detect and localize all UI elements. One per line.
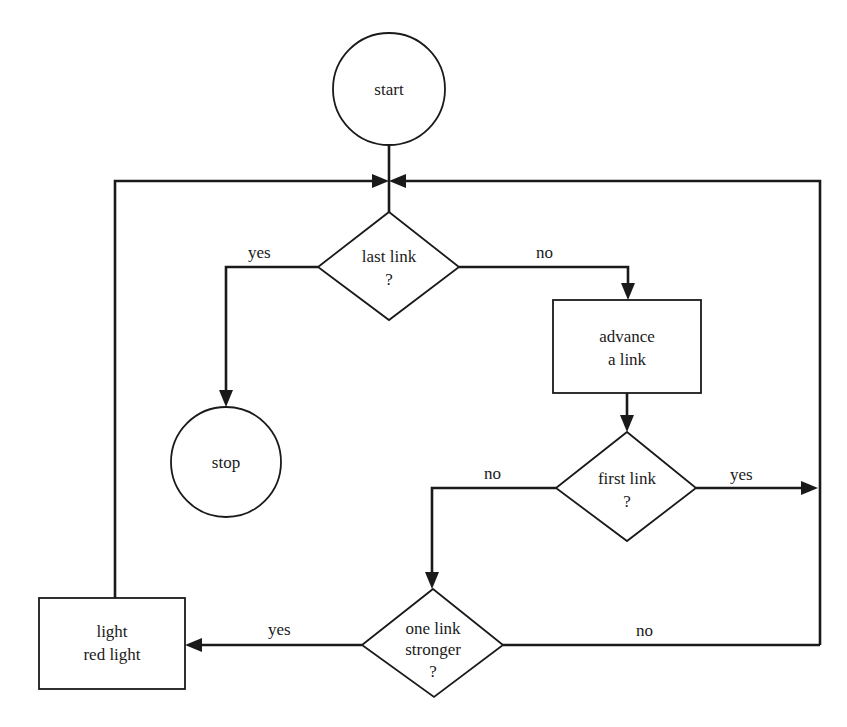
last-link-no-edge: no: [459, 243, 635, 300]
first-link-question: ?: [623, 492, 631, 511]
last-link-question: ?: [385, 270, 393, 289]
stronger-label-line2: stronger: [405, 640, 461, 659]
red-light-label-line1: light: [96, 622, 127, 641]
first-link-label: first link: [598, 469, 657, 488]
stronger-no-edge: no: [503, 621, 820, 645]
stronger-label-line1: one link: [405, 619, 461, 638]
stronger-yes-edge: yes: [185, 620, 362, 652]
stronger-decision: one link stronger ?: [362, 589, 503, 697]
right-loop-edge: [389, 174, 820, 645]
last-link-label: last link: [362, 247, 417, 266]
last-link-decision: last link ?: [318, 212, 459, 320]
first-link-yes-edge: yes: [696, 465, 818, 495]
flowchart-canvas: start last link ? yes stop no advance a: [0, 0, 847, 727]
stronger-no-label: no: [636, 621, 653, 640]
advance-label-line1: advance: [599, 327, 655, 346]
advance-label-line2: a link: [608, 350, 647, 369]
last-link-yes-label: yes: [248, 243, 271, 262]
first-link-no-edge: no: [425, 464, 556, 589]
start-label: start: [374, 80, 404, 99]
red-light-process: light red light: [39, 598, 185, 689]
first-link-no-label: no: [484, 464, 501, 483]
advance-to-first-link-edge: [620, 393, 634, 432]
stop-node: stop: [171, 407, 281, 517]
stop-label: stop: [212, 453, 240, 472]
stronger-question: ?: [429, 662, 437, 681]
first-link-decision: first link ?: [556, 432, 696, 541]
advance-link-process: advance a link: [553, 300, 701, 393]
start-node: start: [333, 33, 445, 145]
red-light-loop-edge: [115, 174, 389, 598]
red-light-label-line2: red light: [83, 645, 140, 664]
first-link-yes-label: yes: [730, 465, 753, 484]
last-link-no-label: no: [536, 243, 553, 262]
last-link-yes-edge: yes: [219, 243, 318, 407]
stronger-yes-label: yes: [268, 620, 291, 639]
